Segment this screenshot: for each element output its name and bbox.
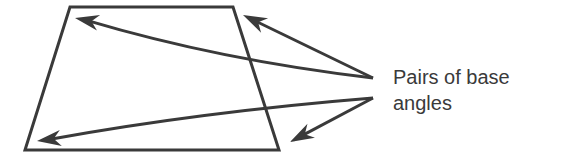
base-angles-label: Pairs of base angles (393, 64, 510, 116)
label-line-2: angles (393, 90, 510, 116)
arrows-group (37, 15, 373, 146)
label-line-1: Pairs of base (393, 64, 510, 90)
arrow-to-bottom-left-angle-line (49, 98, 373, 139)
arrow-to-bottom-right-angle-head-icon (290, 124, 315, 142)
trapezoid-shape (25, 7, 279, 150)
arrow-to-top-left-angle-line (87, 20, 373, 78)
